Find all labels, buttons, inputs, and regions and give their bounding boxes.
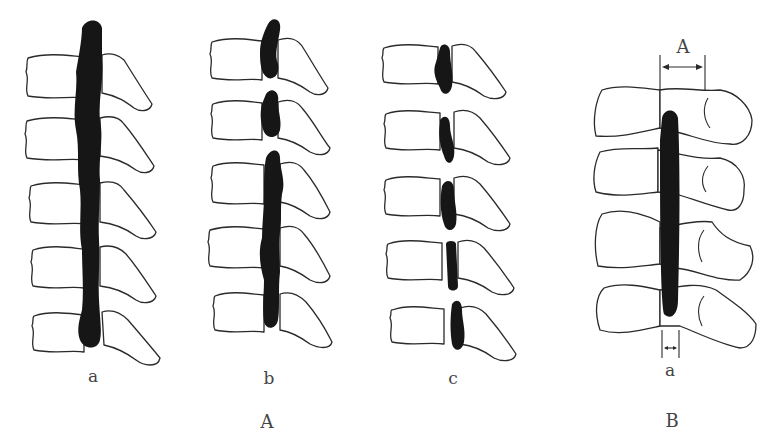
panel-B-diagram (594, 55, 756, 358)
dimension-label-a: a (665, 360, 675, 380)
subfigure-c (382, 44, 516, 360)
subfigure-b (208, 19, 332, 347)
segmental-ossification-piece (439, 117, 454, 163)
spine-figure (0, 0, 774, 448)
segmental-ossification-piece (260, 19, 280, 78)
dimension-label-A: A (677, 36, 690, 57)
subfigure-label-a: a (88, 366, 98, 386)
subfigure-label-b: b (264, 368, 275, 388)
subfigure-label-c: c (448, 368, 458, 388)
subfigure-a (25, 21, 160, 366)
panel-label-A: A (261, 411, 274, 432)
segmental-ossification-piece (261, 90, 281, 137)
segmental-ossification-piece (446, 241, 458, 291)
ossification-column (660, 111, 680, 317)
panel-label-B: B (665, 410, 678, 431)
